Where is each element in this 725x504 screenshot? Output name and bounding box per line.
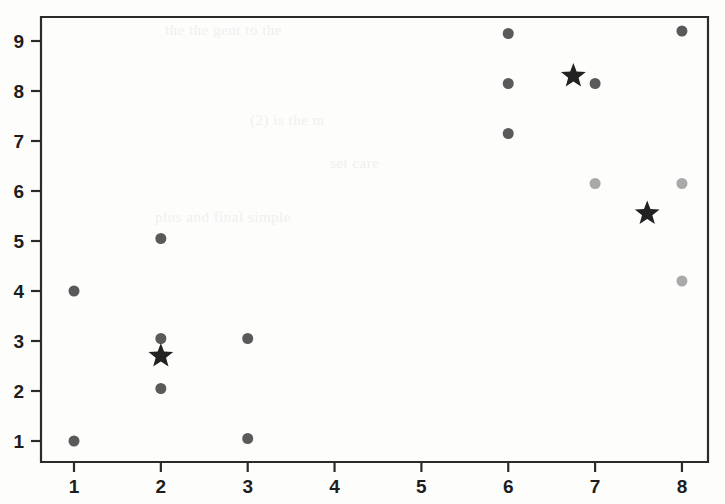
data-point-marker <box>503 28 514 39</box>
x-tick-label-4: 4 <box>329 476 340 497</box>
y-tick-label-1: 1 <box>13 431 24 452</box>
plot-canvas: the the gent to the (2) is the m set car… <box>0 0 725 504</box>
svg-text:(2) is the m: (2) is the m <box>250 112 325 129</box>
data-point-marker <box>590 178 601 189</box>
axis-frame-line <box>41 17 708 462</box>
data-point-marker <box>155 233 166 244</box>
x-tick-label-8: 8 <box>677 476 688 497</box>
data-point-marker <box>242 333 253 344</box>
x-tick-label-2: 2 <box>156 476 167 497</box>
centroid-marker <box>635 201 660 225</box>
centroid-marker <box>148 343 173 367</box>
data-point-marker <box>69 286 80 297</box>
data-point-marker <box>242 433 253 444</box>
data-point-marker <box>503 128 514 139</box>
x-axis-tick-labels: 12345678 <box>69 476 688 497</box>
svg-text:the the gent to the: the the gent to the <box>165 22 282 38</box>
background-bleedthrough: the the gent to the (2) is the m set car… <box>155 22 379 225</box>
svg-text:set care: set care <box>330 155 379 171</box>
y-tick-label-7: 7 <box>13 131 24 152</box>
svg-text:plus and final simple: plus and final simple <box>155 209 291 225</box>
x-tick-label-6: 6 <box>503 476 514 497</box>
data-point-marker <box>503 78 514 89</box>
x-axis-ticks <box>74 462 682 472</box>
x-tick-label-7: 7 <box>590 476 601 497</box>
axes-frame <box>41 17 708 462</box>
y-tick-label-2: 2 <box>13 381 24 402</box>
y-tick-label-4: 4 <box>13 281 24 302</box>
centroid-marker <box>561 63 586 87</box>
y-tick-label-6: 6 <box>13 181 24 202</box>
data-point-marker <box>676 178 687 189</box>
data-point-marker <box>676 276 687 287</box>
data-point-marker <box>155 333 166 344</box>
data-point-marker <box>155 383 166 394</box>
y-axis-tick-labels: 123456789 <box>13 31 24 452</box>
data-markers-dark <box>69 26 688 447</box>
x-tick-label-3: 3 <box>242 476 253 497</box>
data-point-marker <box>69 436 80 447</box>
data-markers-light <box>590 178 688 287</box>
y-axis-ticks <box>31 41 41 441</box>
x-tick-label-5: 5 <box>416 476 427 497</box>
data-point-marker <box>676 26 687 37</box>
y-tick-label-3: 3 <box>13 331 24 352</box>
scatter-plot-figure: the the gent to the (2) is the m set car… <box>0 0 725 504</box>
data-point-marker <box>590 78 601 89</box>
x-tick-label-1: 1 <box>69 476 80 497</box>
y-tick-label-5: 5 <box>13 231 24 252</box>
y-tick-label-9: 9 <box>13 31 24 52</box>
y-tick-label-8: 8 <box>13 81 24 102</box>
